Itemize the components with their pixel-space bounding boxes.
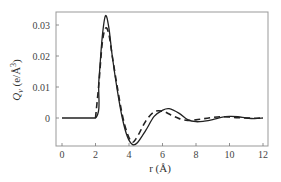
dashed-line <box>96 28 264 143</box>
svg-text:0.01: 0.01 <box>33 82 51 93</box>
svg-text:8: 8 <box>194 149 199 160</box>
chart: 02468101200.010.020.03 r (Å) Qv (e/Å3) <box>0 0 281 182</box>
y-axis-label: Qv (e/Å3) <box>9 59 25 101</box>
data-lines <box>62 15 263 144</box>
svg-text:4: 4 <box>127 149 132 160</box>
svg-text:0.03: 0.03 <box>33 20 51 31</box>
svg-text:6: 6 <box>160 149 165 160</box>
svg-text:0: 0 <box>45 113 50 124</box>
axis-ticks: 02468101200.010.020.03 <box>33 20 269 161</box>
svg-text:0: 0 <box>60 149 65 160</box>
plot-frame <box>56 12 268 146</box>
svg-text:12: 12 <box>258 149 268 160</box>
x-axis-label: r (Å) <box>149 162 171 175</box>
svg-text:Qv (e/Å3): Qv (e/Å3) <box>9 59 25 101</box>
svg-text:10: 10 <box>225 149 235 160</box>
solid-line <box>62 15 263 144</box>
svg-text:0.02: 0.02 <box>33 51 51 62</box>
svg-text:2: 2 <box>93 149 98 160</box>
